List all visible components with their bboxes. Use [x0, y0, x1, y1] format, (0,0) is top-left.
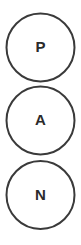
node-a[interactable]: A: [7, 87, 75, 155]
node-a-label: A: [35, 111, 46, 128]
node-chain-svg: P A N: [0, 0, 81, 245]
node-p[interactable]: P: [7, 14, 75, 82]
node-n[interactable]: N: [7, 161, 75, 229]
diagram-canvas: P A N: [0, 0, 81, 245]
node-p-label: P: [35, 38, 45, 55]
node-n-label: N: [35, 186, 46, 203]
